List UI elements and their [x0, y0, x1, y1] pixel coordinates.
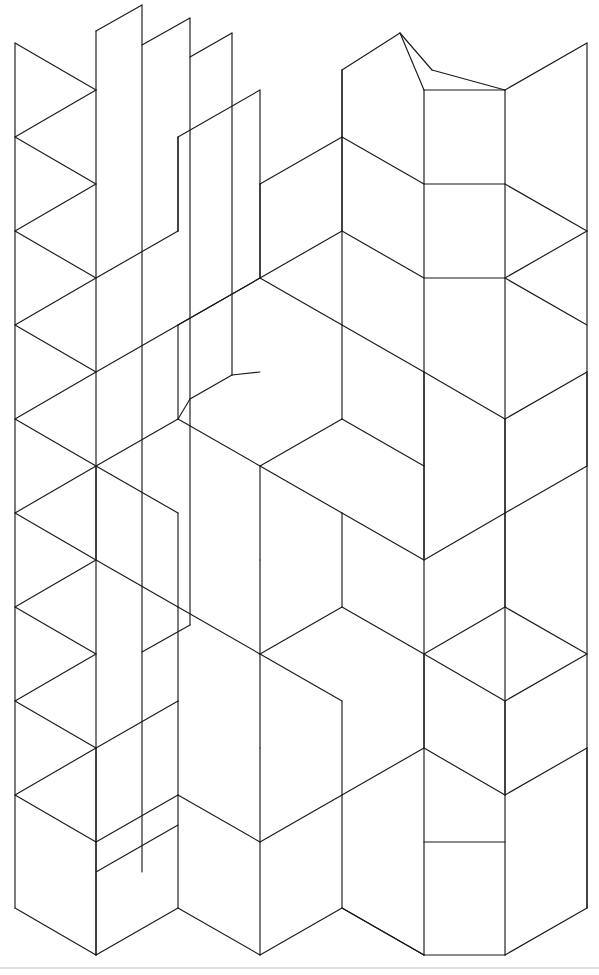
figure-root: [0, 0, 599, 975]
paper-background: [0, 0, 599, 975]
axonometric-tiling-svg: [0, 0, 599, 975]
